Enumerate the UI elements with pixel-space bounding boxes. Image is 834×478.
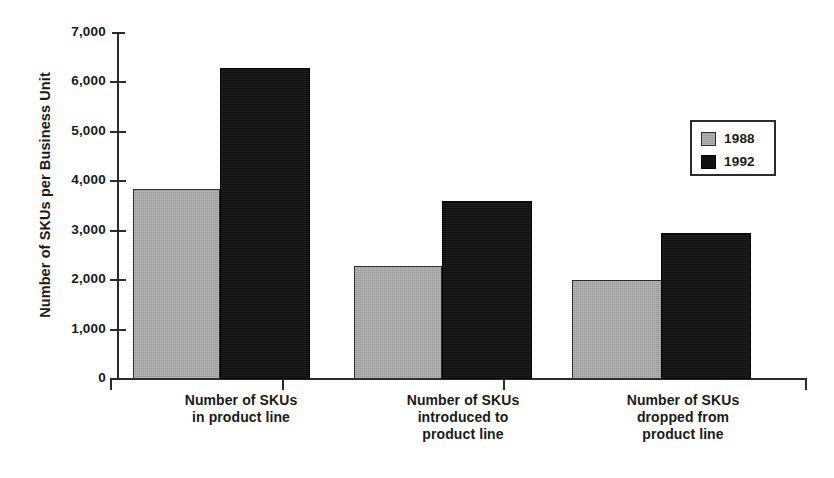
y-axis-tick-label: 3,000: [44, 222, 106, 237]
bars-layer: [118, 33, 808, 379]
x-axis-separator-tick: [503, 379, 505, 390]
x-axis-category-label-2: Number of SKUsintroduced toproduct line: [358, 392, 568, 443]
legend: 19881992: [690, 120, 776, 176]
category-label-line: Number of SKUs: [578, 392, 788, 409]
bar-1988-group-2: [354, 266, 442, 379]
bar-chart: Number of SKUs per Business Unit 01,0002…: [0, 0, 834, 478]
x-axis-category-label-1: Number of SKUsin product line: [136, 392, 346, 426]
y-axis-tick-label: 4,000: [44, 172, 106, 187]
category-label-line: in product line: [136, 409, 346, 426]
bar-1988-group-3: [572, 280, 662, 379]
plot-area: [118, 33, 808, 379]
category-label-line: dropped from: [578, 409, 788, 426]
bar-1992-group-3: [661, 233, 751, 379]
x-axis-category-labels: Number of SKUsin product lineNumber of S…: [110, 392, 810, 462]
legend-item-1992: 1992: [701, 150, 774, 173]
x-axis-separator-tick: [282, 379, 284, 390]
y-axis-tick-label: 0: [44, 370, 106, 385]
category-label-line: Number of SKUs: [136, 392, 346, 409]
y-axis-tick-label: 7,000: [44, 24, 106, 39]
x-axis-end-tick: [805, 379, 807, 390]
legend-swatch-1992: [701, 155, 716, 169]
y-axis-tick-labels: 01,0002,0003,0004,0005,0006,0007,000: [40, 0, 106, 478]
bar-1992-group-2: [442, 201, 532, 379]
legend-swatch-1988: [701, 132, 716, 146]
category-label-line: product line: [578, 426, 788, 443]
category-label-line: introduced to: [358, 409, 568, 426]
legend-label: 1988: [724, 131, 755, 146]
x-axis-category-label-3: Number of SKUsdropped fromproduct line: [578, 392, 788, 443]
x-axis-end-tick: [110, 379, 112, 390]
category-label-line: Number of SKUs: [358, 392, 568, 409]
y-axis-tick-label: 2,000: [44, 271, 106, 286]
y-axis-tick-label: 1,000: [44, 321, 106, 336]
y-axis-tick-label: 5,000: [44, 123, 106, 138]
bar-1992-group-1: [220, 68, 310, 379]
bar-1988-group-1: [133, 189, 220, 379]
legend-item-1988: 1988: [701, 127, 774, 150]
y-axis-tick-label: 6,000: [44, 73, 106, 88]
category-label-line: product line: [358, 426, 568, 443]
legend-label: 1992: [724, 154, 755, 169]
